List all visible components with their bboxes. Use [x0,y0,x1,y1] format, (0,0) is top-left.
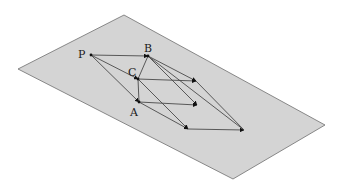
point-a [138,101,141,104]
plane [18,15,325,179]
label-c: C [128,66,136,79]
point-b [147,55,150,58]
point-c [137,78,140,81]
label-p: P [78,48,86,61]
label-a: A [129,106,139,119]
point-p [90,54,93,57]
vector-diagram: P B C A [0,0,337,193]
label-b: B [144,42,152,55]
